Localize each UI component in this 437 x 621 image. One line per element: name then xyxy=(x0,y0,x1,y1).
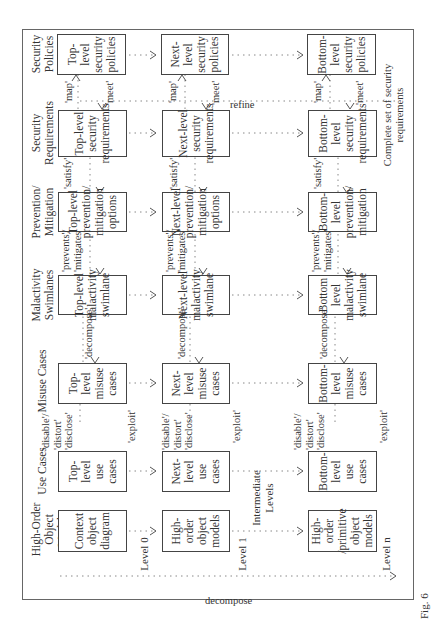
box-ln-bottom-level-prevention-mitigation: Bottom-level prevention/ mitigation xyxy=(308,192,377,232)
rel-l0-decompose: 'decompose' xyxy=(83,308,95,359)
rel-l0-exploit: 'exploit' xyxy=(126,410,138,443)
rel-l1-threat: 'disable'/ 'distort' 'disclose' xyxy=(160,404,195,450)
rel-ln-exploit: 'exploit' xyxy=(378,410,390,443)
column-header-prevention-mitigation: Prevention/ Mitigation xyxy=(30,183,56,241)
level-label-1: Level 1 xyxy=(236,532,249,576)
level-label-intermediate: Intermediate Levels xyxy=(250,465,275,531)
rel-l0-meet: 'meet' xyxy=(104,81,116,105)
box-l1-next-level-prevention-mitigation: Next-level prevention/ mitigation option… xyxy=(162,192,230,232)
rel-l0-map: 'map' xyxy=(63,81,75,103)
rel-l1-meet: 'meet' xyxy=(210,81,222,105)
rel-ln-satisfy: 'satisfy' xyxy=(312,158,324,189)
figure-caption: Fig. 6 xyxy=(418,593,430,619)
axis-label-decompose: decompose xyxy=(205,595,252,607)
rel-l1-satisfy: 'satisfy' xyxy=(168,158,180,189)
column-header-security-policies: Security Policies xyxy=(30,27,56,81)
rel-l1-decompose: 'decompose' xyxy=(176,308,188,359)
box-l1-next-level-security-requirements: Next-level security requirements xyxy=(162,110,230,157)
rel-ln-meet: 'meet' xyxy=(354,81,366,105)
rel-ln-decompose: 'decompose' xyxy=(318,308,330,359)
box-l1-high-order-object-models: High-order object models xyxy=(162,510,230,552)
box-ln-primitive-object-models: High-order /primitive object models xyxy=(308,510,377,552)
axis-label-refine: refine xyxy=(230,99,254,111)
box-l1-next-level-security-policies: Next-level security policies xyxy=(161,34,229,75)
box-l0-context-object-diagram: Context object diagram xyxy=(58,510,127,552)
level-label-0: Level 0 xyxy=(138,532,151,576)
box-ln-bottom-level-misuse-cases: Bottom-level misuse cases xyxy=(308,363,377,404)
rel-l1-prevents: 'prevents'/ 'mitigates' xyxy=(164,232,187,272)
box-l0-top-level-misuse-cases: Top-level misuse cases xyxy=(58,363,127,404)
box-l0-top-level-security-policies: Top-level security policies xyxy=(57,34,126,75)
rel-ln-threat: 'disable'/ 'distort' 'disclose' xyxy=(292,404,327,450)
rel-l0-satisfy: 'satisfy' xyxy=(62,158,74,189)
box-l0-top-level-use-cases: Top-level use cases xyxy=(58,451,127,492)
level-label-n: Level n xyxy=(380,532,393,576)
rel-l1-map: 'map' xyxy=(167,81,179,103)
security-requirements-diagram: High-Order Object Models Use Cases Misus… xyxy=(0,0,437,621)
box-l1-next-level-use-cases: Next-level use cases xyxy=(162,451,230,492)
box-ln-bottom-level-use-cases: Bottom-level use cases xyxy=(308,451,377,492)
rel-l0-prevents: 'prevents'/ 'mitigates' xyxy=(60,232,83,272)
rel-l0-threat: 'disable'/ 'distort' 'disclose' xyxy=(40,404,75,450)
box-l0-top-level-prevention-mitigation: Top-level prevention/ mitigation options xyxy=(58,192,127,232)
axis-label-complete-set: Complete set of security requirements xyxy=(382,59,405,171)
rel-ln-map: 'map' xyxy=(312,81,324,103)
box-l1-next-level-malactivity-swimlane: Next-level malactivity swimlane xyxy=(162,275,230,315)
box-ln-bottom-level-security-requirements: Bottom-level security requirements xyxy=(308,110,377,157)
box-l1-next-level-misuse-cases: Next-level misuse cases xyxy=(162,363,230,404)
column-header-security-requirements: Security Requirements xyxy=(30,100,56,166)
rel-l1-exploit: 'exploit' xyxy=(231,410,243,443)
box-ln-bottom-level-security-policies: Bottom-level security policies xyxy=(307,34,376,75)
column-header-use-cases: Use Cases xyxy=(36,446,49,496)
column-header-malactivity-swimlanes: Malactivity Swimlanes xyxy=(30,264,56,326)
box-l0-top-level-security-requirements: Top-level security requirements xyxy=(58,110,127,157)
rel-ln-prevents: 'prevents'/ 'mitigates' xyxy=(310,232,333,272)
